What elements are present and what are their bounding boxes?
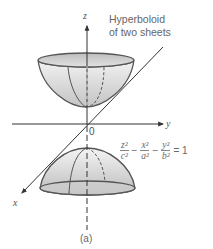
- diagram-title: Hyperboloid of two sheets: [109, 13, 171, 39]
- equation-operator: −: [152, 145, 158, 156]
- y-axis-label: y: [166, 118, 170, 129]
- z-axis-label: z: [83, 10, 87, 21]
- figure-caption: (a): [80, 233, 92, 244]
- equation-operator: −: [132, 145, 138, 156]
- equation-term-x: x² a²: [140, 140, 149, 161]
- equation: z² c² − x² a² − y² b² = 1: [120, 140, 188, 161]
- equation-term-y: y² b²: [161, 140, 170, 161]
- equation-term-z: z² c²: [120, 140, 129, 161]
- origin-label: 0: [89, 126, 95, 137]
- equation-rhs: = 1: [173, 145, 187, 156]
- x-axis-label: x: [13, 197, 17, 208]
- upper-sheet: [38, 53, 134, 107]
- hyperboloid-diagram: [0, 0, 213, 249]
